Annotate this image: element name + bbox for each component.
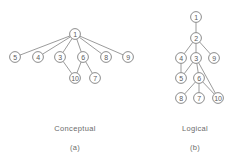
node-label: 10 bbox=[71, 75, 79, 82]
tree-node[interactable]: 3 bbox=[55, 52, 66, 63]
tree-edge bbox=[43, 37, 71, 54]
tree-node[interactable]: 9 bbox=[209, 53, 220, 64]
node-label: 7 bbox=[197, 95, 201, 102]
tree-node[interactable]: 7 bbox=[194, 93, 205, 104]
tree-node[interactable]: 4 bbox=[33, 52, 44, 63]
tree-edge bbox=[63, 61, 72, 73]
panel-caption-logical: Logical bbox=[145, 124, 245, 133]
tree-edge bbox=[197, 63, 198, 72]
node-label: 3 bbox=[58, 54, 62, 61]
tree-edge bbox=[86, 62, 93, 74]
node-label: 6 bbox=[81, 54, 85, 61]
panel-sublabel-b: (b) bbox=[145, 143, 245, 152]
node-label: 9 bbox=[212, 55, 216, 62]
panel-caption-conceptual: Conceptual bbox=[20, 124, 130, 133]
tree-node[interactable]: 5 bbox=[176, 73, 187, 84]
tree-edge bbox=[80, 36, 123, 55]
tree-node[interactable]: 5 bbox=[10, 52, 21, 63]
tree-node[interactable]: 9 bbox=[123, 52, 134, 63]
tree-node[interactable]: 10 bbox=[213, 93, 224, 104]
node-label: 6 bbox=[197, 75, 201, 82]
node-label: 4 bbox=[36, 54, 40, 61]
tree-node[interactable]: 10 bbox=[70, 73, 81, 84]
nodes-layer: 154368910712439568710 bbox=[10, 12, 224, 104]
tree-node[interactable]: 4 bbox=[176, 53, 187, 64]
node-label: 8 bbox=[179, 95, 183, 102]
tree-node[interactable]: 8 bbox=[176, 93, 187, 104]
tree-edge bbox=[200, 42, 211, 54]
tree-edge bbox=[77, 62, 81, 73]
node-label: 8 bbox=[104, 54, 108, 61]
tree-node[interactable]: 8 bbox=[101, 52, 112, 63]
figure-container: 154368910712439568710 Conceptual (a) Log… bbox=[0, 0, 246, 161]
node-label: 10 bbox=[214, 95, 222, 102]
node-label: 1 bbox=[194, 14, 198, 21]
tree-node[interactable]: 3 bbox=[191, 53, 202, 64]
tree-edge bbox=[185, 82, 196, 94]
tree-node[interactable]: 6 bbox=[78, 52, 89, 63]
node-label: 2 bbox=[194, 35, 198, 42]
node-label: 5 bbox=[13, 54, 17, 61]
tree-node[interactable]: 2 bbox=[191, 33, 202, 44]
node-label: 3 bbox=[194, 55, 198, 62]
node-label: 7 bbox=[93, 75, 97, 82]
node-label: 5 bbox=[179, 75, 183, 82]
tree-edge bbox=[184, 62, 193, 73]
node-label: 9 bbox=[126, 54, 130, 61]
panel-sublabel-a: (a) bbox=[20, 143, 130, 152]
tree-diagram-canvas: 154368910712439568710 bbox=[0, 0, 246, 161]
tree-node[interactable]: 1 bbox=[191, 12, 202, 23]
tree-node[interactable]: 6 bbox=[194, 73, 205, 84]
node-label: 4 bbox=[179, 55, 183, 62]
tree-edge bbox=[77, 39, 81, 52]
node-label: 1 bbox=[73, 31, 77, 38]
tree-node[interactable]: 7 bbox=[90, 73, 101, 84]
tree-edge bbox=[184, 42, 193, 53]
tree-node[interactable]: 1 bbox=[70, 29, 81, 40]
